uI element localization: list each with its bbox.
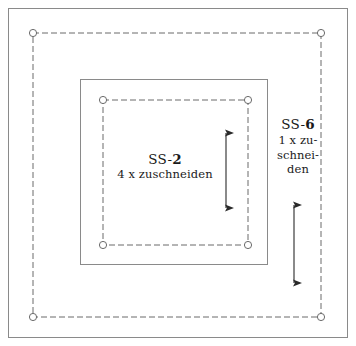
corner-marker-outer-bottom-right: [317, 313, 324, 320]
corner-marker-inner-bottom-right: [244, 241, 251, 248]
piece-code-number: 2: [172, 151, 182, 167]
piece-quantity-ss-6-line-3: den: [272, 162, 324, 177]
piece-code-prefix: SS-: [281, 116, 305, 132]
piece-code-number: 6: [305, 116, 315, 132]
pattern-sheet: SS-2 4 x zuschneiden SS-6 1 x zu- schnei…: [0, 0, 356, 346]
piece-code-ss-6: SS-6: [272, 117, 324, 133]
piece-code-prefix: SS-: [148, 151, 172, 167]
piece-label-ss-6: SS-6 1 x zu- schnei- den: [272, 117, 324, 177]
piece-quantity-ss-6-line-1: 1 x zu-: [272, 133, 324, 148]
piece-quantity-ss-2: 4 x zuschneiden: [104, 168, 226, 182]
corner-marker-inner-top-left: [99, 96, 106, 103]
piece-code-ss-2: SS-2: [104, 152, 226, 168]
corner-marker-outer-top-right: [317, 29, 324, 36]
piece-quantity-ss-6-line-2: schnei-: [272, 148, 324, 163]
corner-marker-outer-top-left: [29, 29, 36, 36]
corner-marker-outer-bottom-left: [29, 313, 36, 320]
corner-marker-inner-top-right: [244, 96, 251, 103]
piece-label-ss-2: SS-2 4 x zuschneiden: [104, 152, 226, 181]
corner-marker-inner-bottom-left: [99, 241, 106, 248]
